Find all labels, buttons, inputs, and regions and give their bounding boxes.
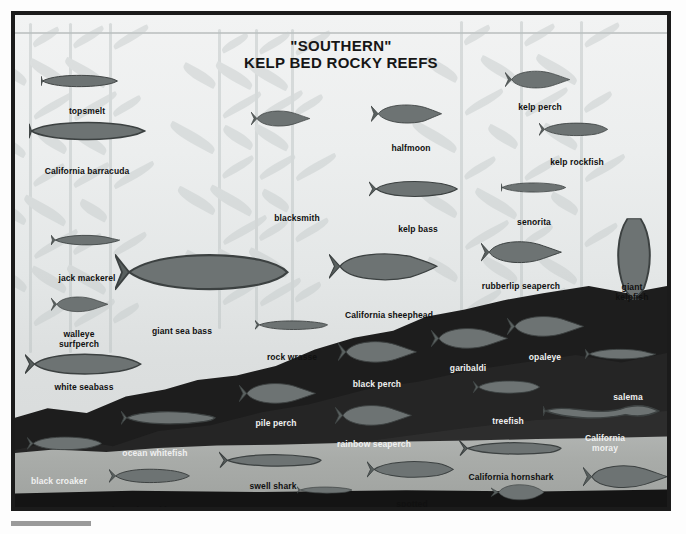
- fish-illustration-co-turbot: [491, 483, 545, 507]
- fish-illustration-treefish: [473, 379, 541, 410]
- poster-title: "SOUTHERN" KELP BED ROCKY REEFS: [15, 37, 667, 71]
- species-label-blacksmith: blacksmith: [274, 213, 319, 223]
- species-label-giant-sea-bass: giant sea bass: [152, 326, 212, 336]
- fish-illustration-swell-shark: [219, 451, 323, 482]
- species-label-giant-kelpfish: giant kelpfish: [615, 282, 650, 302]
- species-label-white-seabass: white seabass: [55, 382, 114, 392]
- fish-illustration-kelp-bass: [369, 179, 459, 217]
- species-label-swell-shark: swell shark: [250, 481, 297, 491]
- species-label-california-sheephead: California sheephead: [345, 310, 433, 320]
- fish-illustration-black-croaker: [27, 435, 103, 467]
- species-label-california-barracuda: California barracuda: [45, 166, 130, 176]
- species-label-rubberlip-seaperch: rubberlip seaperch: [482, 281, 560, 291]
- reef-scene: "SOUTHERN" KELP BED ROCKY REEFS topsmelt…: [15, 15, 667, 507]
- species-label-topsmelt: topsmelt: [69, 106, 105, 116]
- species-label-rainbow-seaperch: rainbow seaperch: [337, 439, 411, 449]
- fish-illustration-california-barracuda: [29, 119, 147, 143]
- species-label-sargo: sargo: [614, 505, 638, 507]
- caption-bar: [11, 521, 91, 526]
- species-label-california-hornshark: California hornshark: [468, 472, 553, 482]
- species-label-jack-mackerel: jack mackerel: [58, 273, 115, 283]
- fish-illustration-california-moray: [543, 399, 661, 423]
- species-label-kelp-rockfish: kelp rockfish: [550, 157, 604, 167]
- species-label-rock-wrasse: rock wrasse: [267, 352, 317, 362]
- fish-illustration-ocean-whitefish: [121, 409, 217, 442]
- species-label-kelp-perch: kelp perch: [518, 102, 562, 112]
- fish-illustration-kelp-rockfish: [539, 121, 609, 153]
- species-label-senorita: senorita: [517, 217, 551, 227]
- species-label-treefish: treefish: [492, 416, 524, 426]
- fish-illustration-senorita: [501, 181, 567, 194]
- fish-illustration-halfmoon: [371, 103, 443, 146]
- fish-illustration-sargo: [583, 463, 667, 507]
- poster-title-line1: "SOUTHERN": [15, 37, 667, 54]
- species-label-opaleye: opaleye: [529, 352, 561, 362]
- fish-illustration-blacksmith: [251, 109, 311, 146]
- poster-page: "SOUTHERN" KELP BED ROCKY REEFS topsmelt…: [0, 0, 686, 534]
- species-label-halfmoon: halfmoon: [391, 143, 430, 153]
- poster-frame: "SOUTHERN" KELP BED ROCKY REEFS topsmelt…: [11, 11, 671, 511]
- fish-illustration-spotted-scorpionfish: [367, 459, 455, 499]
- fish-illustration-white-seabass: [25, 351, 143, 401]
- species-label-ocean-whitefish: ocean whitefish: [122, 448, 187, 458]
- fish-illustration-california-hornshark: [459, 439, 563, 470]
- species-label-pile-perch: pile perch: [255, 418, 296, 428]
- species-label-walleye-surfperch: walleye surfperch: [59, 329, 99, 349]
- fish-illustration-barred-sand-bass: [109, 467, 191, 501]
- fish-illustration-jack-mackerel: [51, 233, 121, 257]
- species-label-garibaldi: garibaldi: [450, 363, 486, 373]
- fish-illustration-topsmelt: [41, 73, 119, 89]
- fish-illustration-california-sheephead: [329, 251, 439, 310]
- species-label-co-turbot: CO turbot: [523, 506, 564, 507]
- species-label-black-perch: black perch: [353, 379, 401, 389]
- species-label-barred-sand-bass: barred sand bass: [112, 505, 184, 507]
- species-label-kelp-bass: kelp bass: [398, 224, 438, 234]
- fish-illustration-blackeye-goby: [297, 485, 353, 505]
- species-label-california-moray: California moray: [574, 433, 636, 453]
- fish-illustration-salema: [585, 347, 657, 371]
- species-label-spotted-scorpionfish: spotted scorpionfish: [386, 499, 438, 507]
- fish-illustration-walleye-surfperch: [51, 295, 109, 331]
- fish-illustration-rock-wrasse: [255, 319, 329, 341]
- species-label-salema: salema: [613, 392, 642, 402]
- species-label-black-croaker: black croaker: [31, 476, 87, 486]
